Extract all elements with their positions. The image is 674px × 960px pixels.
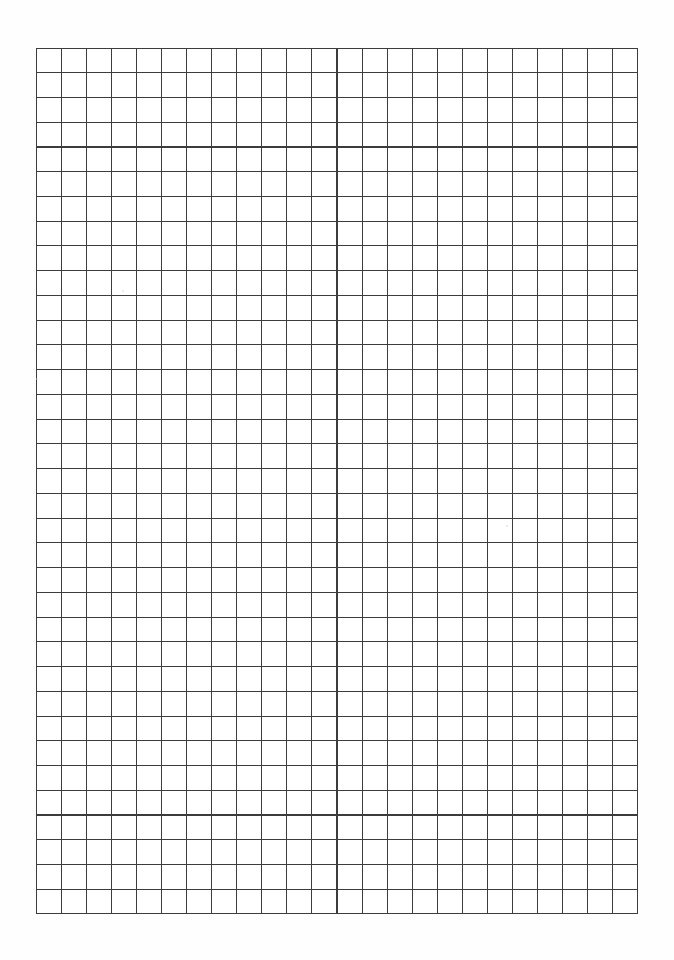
right-margin — [638, 48, 674, 914]
left-margin — [0, 48, 36, 914]
scan-speckle-2 — [506, 525, 508, 527]
scan-speckle-3 — [36, 378, 38, 380]
page-canvas — [0, 0, 674, 960]
grid-lines-svg — [36, 48, 638, 914]
grid-vertical-lines — [36, 48, 638, 914]
grid-paper-block — [36, 48, 638, 914]
bottom-margin — [0, 914, 674, 960]
scan-speckle-1 — [122, 290, 124, 292]
top-margin — [0, 0, 674, 48]
